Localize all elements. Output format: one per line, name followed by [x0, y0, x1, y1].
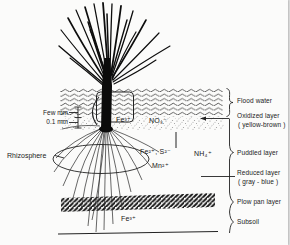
- no3-label: NO₃⁻: [149, 117, 167, 125]
- reduced-layer-label: Reduced layer: [237, 169, 280, 177]
- puddled-layer-label: Puddled layer: [237, 149, 278, 157]
- root-system: [54, 125, 159, 232]
- fe3-subsoil-label: Fe³⁺: [121, 215, 136, 223]
- plow-pan-band: [61, 193, 215, 212]
- subsoil-bottom-line: [58, 232, 218, 235]
- flood-water-label: Flood water: [237, 97, 272, 105]
- few-mm-label: Few mm: [28, 109, 68, 117]
- subsoil-label: Subsoil: [237, 218, 259, 226]
- oxidized-layer-color-label: ( yellow-brown ): [238, 121, 285, 129]
- fe2-s2-label: Fe²⁺, S²⁻: [140, 148, 171, 156]
- nh4-label: NH₄⁺: [194, 150, 212, 158]
- root-crown: [99, 126, 113, 133]
- mn2-label: Mn²⁺: [152, 162, 169, 170]
- oxidized-layer-band: [60, 117, 224, 130]
- reduced-layer-color-label: ( gray - blue ): [238, 178, 278, 186]
- paddy-soil-profile-diagram: Few mm 0.1 mm Rhizosphere Flood water Ox…: [0, 0, 288, 245]
- rhizosphere-label: Rhizosphere: [7, 152, 46, 160]
- soil-layers-brace: [230, 119, 234, 234]
- flood-water-band: [60, 88, 223, 117]
- point-one-mm-label: 0.1 mm: [28, 118, 68, 126]
- flood-water-brace: [227, 89, 234, 117]
- fe3-oxidized-label: Fe³⁺: [116, 116, 131, 124]
- plow-pan-layer-label: Plow pan layer: [237, 198, 281, 206]
- oxidized-layer-label: Oxidized layer: [237, 112, 280, 120]
